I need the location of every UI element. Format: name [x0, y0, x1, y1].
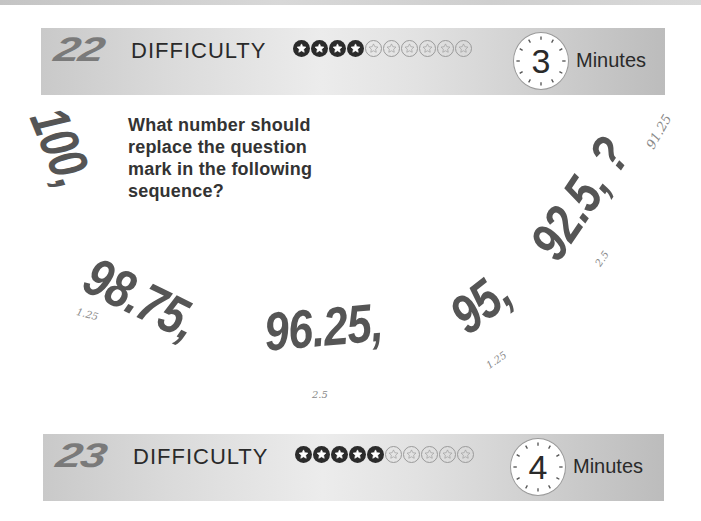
clock-icon: 4: [510, 438, 566, 496]
star-empty-icon: [455, 40, 472, 57]
puzzle-number: 23: [53, 438, 109, 472]
star-filled-icon: [367, 446, 384, 463]
sequence-term: 95,: [440, 264, 520, 343]
star-empty-icon: [437, 40, 454, 57]
sequence-term: 98.75,: [76, 248, 206, 348]
difficulty-label: DIFFICULTY: [131, 38, 266, 64]
puzzle-23-header: 23 DIFFICULTY 4 Minutes: [43, 434, 664, 501]
top-border-strip: [0, 0, 701, 5]
star-filled-icon: [349, 446, 366, 463]
star-empty-icon: [457, 446, 474, 463]
handwritten-difference: 1.25: [484, 349, 509, 371]
handwritten-difference: 2.5: [312, 389, 328, 400]
time-limit-value: 3: [514, 42, 568, 80]
star-empty-icon: [421, 446, 438, 463]
time-limit-value: 4: [511, 448, 565, 486]
star-empty-icon: [419, 40, 436, 57]
star-filled-icon: [295, 446, 312, 463]
sequence-term: 96.25,: [262, 295, 384, 359]
clock-icon: 3: [513, 32, 569, 90]
sequence-term: 100,: [22, 100, 102, 193]
question-text: What number should replace the question …: [128, 114, 318, 202]
puzzle-page: 22 DIFFICULTY 3 Minutes What number shou…: [0, 0, 701, 521]
sequence-term-with-question-mark: 92.5, ?: [520, 128, 639, 268]
star-filled-icon: [311, 40, 328, 57]
star-filled-icon: [313, 446, 330, 463]
star-empty-icon: [401, 40, 418, 57]
puzzle-22-header: 22 DIFFICULTY 3 Minutes: [41, 28, 665, 95]
star-filled-icon: [329, 40, 346, 57]
handwritten-difference: 2.5: [593, 249, 611, 268]
star-empty-icon: [403, 446, 420, 463]
star-empty-icon: [383, 40, 400, 57]
difficulty-rating: [293, 40, 472, 57]
difficulty-label: DIFFICULTY: [133, 444, 268, 470]
star-empty-icon: [365, 40, 382, 57]
puzzle-number: 22: [51, 32, 107, 66]
star-filled-icon: [293, 40, 310, 57]
time-unit-label: Minutes: [573, 454, 643, 478]
time-unit-label: Minutes: [576, 48, 646, 72]
star-empty-icon: [439, 446, 456, 463]
handwritten-answer: 91.25: [643, 112, 675, 152]
star-filled-icon: [347, 40, 364, 57]
star-filled-icon: [331, 446, 348, 463]
difficulty-rating: [295, 446, 474, 463]
star-empty-icon: [385, 446, 402, 463]
